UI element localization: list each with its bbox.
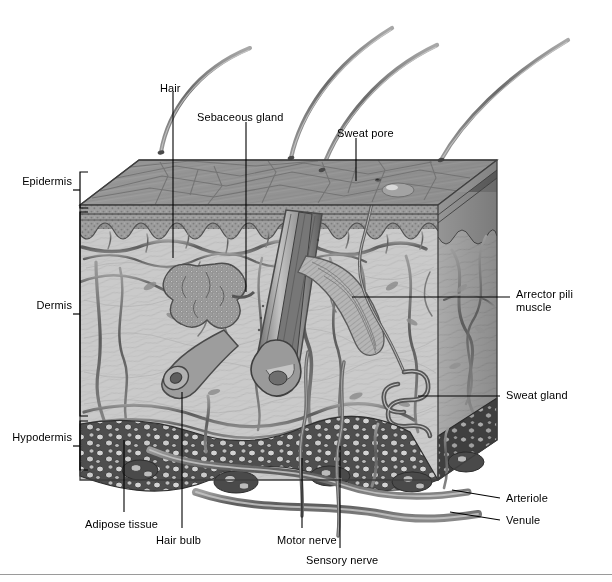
layer-label-dermis: Dermis: [0, 299, 72, 312]
skin-papule: [382, 183, 414, 197]
hair-shafts-group: [161, 28, 568, 170]
callout-label-hair-bulb: Hair bulb: [156, 534, 201, 547]
layer-label-epidermis: Epidermis: [0, 175, 72, 188]
sweat-pore-opening: [375, 178, 381, 181]
hair-shaft-4: [441, 40, 568, 160]
callout-label-hair: Hair: [160, 82, 181, 95]
callout-label-adipose-tissue: Adipose tissue: [85, 518, 158, 531]
hair-shaft-1: [161, 48, 250, 152]
skin-top-surface: [80, 150, 497, 205]
hair-shaft-4-hl: [441, 42, 567, 160]
hair-shaft-1-hl: [161, 50, 249, 152]
callout-label-sweat-pore: Sweat pore: [337, 127, 394, 140]
callout-label-arrector-pili-muscle: Arrector pili muscle: [516, 288, 608, 314]
skin-anatomy-figure: Epidermis Dermis Hypodermis Hair Sebaceo…: [0, 0, 612, 582]
callout-label-venule: Venule: [506, 514, 540, 527]
callout-label-sweat-gland: Sweat gland: [506, 389, 568, 402]
layer-label-hypodermis: Hypodermis: [0, 431, 72, 444]
hair-shaft-3-hl: [322, 47, 436, 170]
callout-label-sebaceous-gland: Sebaceous gland: [197, 111, 284, 124]
hair-shaft-3: [322, 45, 437, 170]
callout-label-sensory-nerve: Sensory nerve: [306, 554, 378, 567]
callout-label-motor-nerve: Motor nerve: [277, 534, 337, 547]
callout-label-arteriole: Arteriole: [506, 492, 548, 505]
